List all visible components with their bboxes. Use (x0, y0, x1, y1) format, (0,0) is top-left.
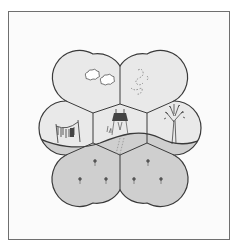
flower-diagram (0, 0, 240, 251)
